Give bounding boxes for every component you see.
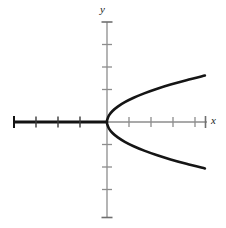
x-axis-label: x bbox=[211, 115, 216, 126]
y-axis-label: y bbox=[100, 4, 105, 15]
parabola-figure: y x bbox=[0, 0, 226, 228]
graph-canvas bbox=[0, 0, 226, 228]
x-axis-positive bbox=[107, 116, 207, 128]
x-axis-negative bbox=[13, 116, 108, 128]
